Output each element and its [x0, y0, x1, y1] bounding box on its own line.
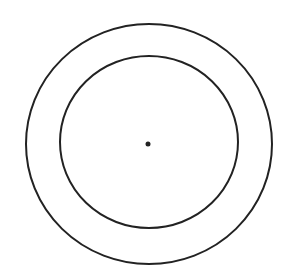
center-dot [146, 142, 151, 147]
concentric-circles-diagram [0, 0, 298, 272]
